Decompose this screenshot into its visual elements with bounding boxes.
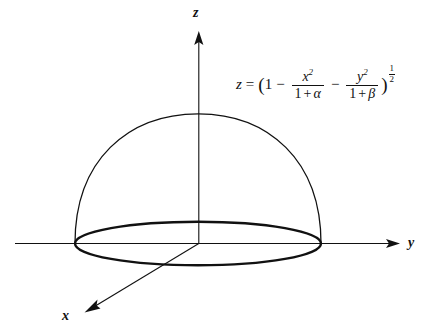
fraction-y-denominator-plus: + (358, 86, 366, 101)
fraction-x-denominator-plus: + (304, 86, 312, 101)
diagram-canvas (0, 0, 431, 336)
axis-label-x: x (62, 309, 69, 323)
fraction-y-numerator-exponent: 2 (363, 67, 368, 77)
exponent-denominator: 2 (389, 75, 396, 84)
fraction-x-denominator-alpha: α (314, 86, 321, 101)
equation-exponent-half: 1 2 (389, 64, 396, 84)
equation-close-paren: ) (381, 75, 387, 94)
equation-lhs: z (236, 77, 242, 92)
fraction-y-denominator-one: 1 (349, 86, 356, 101)
equation-minus-2: − (331, 77, 339, 92)
axis-x-arrowhead (85, 300, 101, 313)
equation-fraction-y: y2 1+β (346, 68, 378, 101)
fraction-y-denominator: 1+β (346, 86, 378, 101)
fraction-y-numerator: y2 (354, 68, 371, 85)
fraction-x-numerator: x2 (299, 68, 316, 85)
exponent-numerator: 1 (389, 64, 396, 73)
fraction-x-denominator: 1+α (292, 86, 324, 101)
equation-equals: = (246, 77, 254, 92)
fraction-x-denominator-one: 1 (295, 86, 302, 101)
axis-z (194, 31, 203, 244)
axis-label-z: z (193, 6, 198, 20)
axis-y (15, 239, 400, 248)
fraction-y-denominator-beta: β (368, 86, 375, 101)
equation-minus-1: − (276, 77, 284, 92)
fraction-x-numerator-exponent: 2 (309, 67, 314, 77)
equation-one: 1 (265, 77, 273, 92)
axis-label-y: y (408, 236, 414, 250)
figure-hemisphere-diagram: z y x z = ( 1 − x2 1+α − y2 1+β ) 1 2 (0, 0, 431, 336)
equation-fraction-x: x2 1+α (292, 68, 324, 101)
surface-equation: z = ( 1 − x2 1+α − y2 1+β ) 1 2 (236, 68, 395, 101)
dome-outline (75, 114, 321, 244)
axis-x (85, 244, 199, 313)
